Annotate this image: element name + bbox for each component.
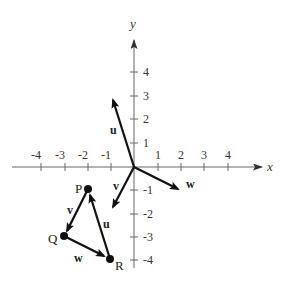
svg-text:-2: -2: [143, 207, 153, 221]
label-w-origin: w: [186, 177, 195, 191]
y-tick-labels: 4 3 2 1 -1 -2 -3 -4: [143, 65, 153, 267]
vector-diagram: x y -4 -3 -2 -1 1 2 3 4 4 3 2 1: [0, 0, 297, 285]
label-u-triangle: u: [103, 217, 110, 231]
label-Q: Q: [48, 231, 58, 246]
label-w-triangle: w: [74, 251, 83, 265]
svg-text:-3: -3: [55, 148, 65, 162]
svg-text:3: 3: [143, 89, 149, 103]
point-R: [106, 255, 114, 263]
point-Q: [60, 232, 68, 240]
y-axis-label: y: [128, 16, 136, 31]
svg-text:2: 2: [178, 148, 184, 162]
svg-text:-1: -1: [143, 183, 153, 197]
svg-text:-3: -3: [143, 230, 153, 244]
svg-text:4: 4: [225, 148, 231, 162]
vector-w: [134, 167, 178, 189]
svg-text:-4: -4: [31, 148, 41, 162]
svg-text:4: 4: [143, 65, 149, 79]
label-v-triangle: v: [67, 203, 73, 217]
label-v-origin: v: [113, 179, 119, 193]
label-R: R: [115, 258, 124, 273]
label-P: P: [75, 181, 82, 196]
svg-text:-1: -1: [101, 148, 111, 162]
svg-text:1: 1: [155, 148, 161, 162]
svg-text:2: 2: [143, 112, 149, 126]
vector-w-QR: [64, 236, 104, 256]
svg-text:-4: -4: [143, 253, 153, 267]
svg-text:3: 3: [201, 148, 207, 162]
x-axis-label: x: [266, 159, 273, 174]
svg-text:1: 1: [143, 136, 149, 150]
label-u-origin: u: [110, 123, 117, 137]
point-P: [84, 185, 92, 193]
svg-text:-2: -2: [78, 148, 88, 162]
